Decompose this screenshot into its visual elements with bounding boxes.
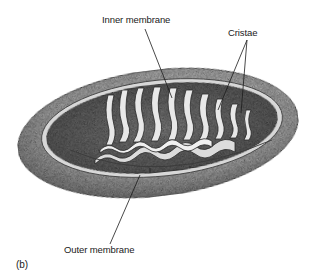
mitochondrion-illustration	[0, 0, 313, 275]
label-inner-membrane: Inner membrane	[102, 14, 170, 25]
label-outer-membrane: Outer membrane	[64, 244, 134, 255]
panel-label: (b)	[16, 259, 28, 270]
mitochondrion-diagram: Inner membrane Cristae Outer membrane (b…	[0, 0, 313, 275]
label-cristae: Cristae	[228, 27, 257, 38]
